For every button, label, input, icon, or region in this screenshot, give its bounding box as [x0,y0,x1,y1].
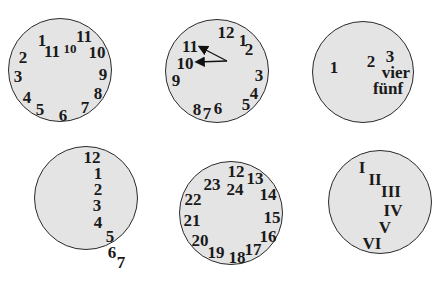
clock-5-number: 14 [260,186,277,203]
clock-2-number: 11 [182,38,198,55]
clock-2-number: 4 [250,85,259,102]
clock-2-number: 5 [242,96,251,113]
clock-5-number: 19 [208,244,225,261]
clock-3-number: fünf [373,80,403,97]
clock-4-number: 4 [94,214,103,231]
clock-6-number: II [368,171,381,188]
clock-drawings-figure: 11110111023984756121211109345876123vierf… [0,0,445,281]
clock-5-number: 23 [204,176,221,193]
clock-2-number: 9 [172,72,181,89]
clock-3-number: 1 [330,59,339,76]
clock-4-number: 6 [108,244,117,261]
clock-5-number: 22 [185,191,202,208]
clock-5-number: 16 [260,228,277,245]
clock-4-number: 7 [117,254,126,271]
clock-5-number: 15 [264,209,281,226]
clock-5-number: 24 [227,181,244,198]
clock-5-number: 20 [192,232,209,249]
clock-6-number: I [359,159,366,176]
clock-5-number: 18 [229,249,246,266]
clock-2-number: 8 [193,101,202,118]
clock-2-number: 6 [214,100,223,117]
clock-5-number: 17 [245,241,262,258]
clock-3-number: 2 [367,53,376,70]
clock-6-number: IV [384,202,403,219]
clock-5-number: 21 [184,212,201,229]
clock-6-number: VI [363,235,382,252]
clock-5-number: 12 [228,163,245,180]
clock-6-number: III [381,183,401,200]
clock-2-number: 12 [218,24,235,41]
clock-hand-arrow-icon [200,47,227,61]
clock-2-number: 7 [203,105,212,122]
clock-2-number: 10 [177,55,194,72]
clock-hand-arrow-icon [197,61,227,62]
clock-4-number: 3 [93,197,102,214]
clock-2-number: 2 [245,41,254,58]
clock-2-number: 3 [255,67,264,84]
